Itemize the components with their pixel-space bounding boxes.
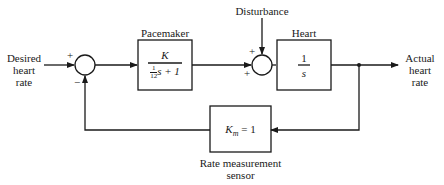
output-label-line-1: Actual — [398, 52, 442, 64]
sensor-gain-value: = 1 — [238, 123, 255, 135]
heart-numerator: 1 — [277, 52, 331, 64]
pacemaker-denominator-rest: s + 1 — [157, 65, 180, 77]
output-label-line-2: heart — [398, 64, 442, 76]
sensor-label: Rate measurement sensor — [190, 157, 291, 181]
input-label-line-2: heart — [4, 64, 44, 76]
heart-title: Heart — [277, 27, 331, 39]
input-label: Desired heart rate — [4, 52, 44, 88]
branch-point — [357, 63, 361, 67]
summing-junction-2 — [252, 55, 272, 75]
sensor-label-line-1: Rate measurement — [190, 157, 291, 169]
sensor-gain-symbol: K — [225, 123, 232, 135]
pacemaker-numerator: K — [138, 49, 192, 61]
sensor-gain: Km = 1 — [210, 123, 271, 140]
junction2-top-plus-sign: + — [249, 46, 255, 57]
heart-denominator: s — [277, 67, 331, 79]
disturbance-label: Disturbance — [226, 5, 298, 17]
input-label-line-1: Desired — [4, 52, 44, 64]
pacemaker-denominator: 1 12 s + 1 — [145, 65, 185, 80]
junction2-left-plus-sign: + — [244, 68, 250, 79]
junction1-plus-sign: + — [67, 50, 73, 61]
sensor-label-line-2: sensor — [190, 169, 291, 181]
output-label-line-3: rate — [398, 76, 442, 88]
summing-junction-1 — [75, 55, 95, 75]
feedback-path-to-junction — [85, 76, 210, 130]
junction1-minus-sign: − — [74, 77, 80, 88]
input-label-line-3: rate — [4, 76, 44, 88]
output-label: Actual heart rate — [398, 52, 442, 88]
pacemaker-title: Pacemaker — [138, 27, 192, 39]
